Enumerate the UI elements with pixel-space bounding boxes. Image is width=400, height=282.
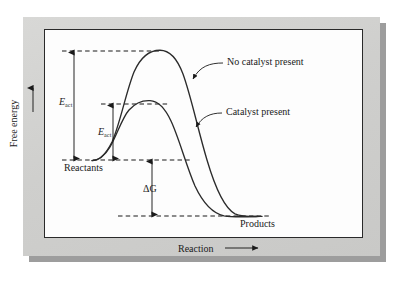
reactants-label: Reactants	[64, 163, 103, 173]
eact-catalyzed-label: Eact	[98, 127, 111, 138]
callout-catalyst: Catalyst present	[226, 107, 290, 117]
delta-g-label: ΔG	[143, 184, 157, 194]
plot-panel	[44, 29, 363, 238]
y-axis-label: Free energy	[8, 89, 19, 159]
x-axis-label: Reaction	[178, 243, 214, 254]
delta-g-symbol: ΔG	[143, 183, 157, 194]
eact-uncatalyzed-subscript: act	[65, 102, 72, 108]
eact-uncatalyzed-label: Eact	[59, 97, 72, 108]
figure-root: Free energy Reaction Eact Eact ΔG Reacta…	[0, 0, 400, 282]
eact-catalyzed-subscript: act	[104, 132, 111, 138]
products-label: Products	[240, 219, 275, 229]
callout-no-catalyst: No catalyst present	[227, 57, 304, 67]
